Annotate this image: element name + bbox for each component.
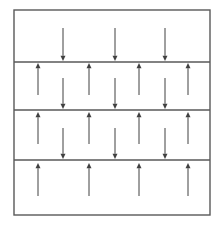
diagram-canvas	[0, 0, 224, 225]
figure-background	[0, 0, 224, 225]
diagram-figure	[0, 0, 224, 225]
